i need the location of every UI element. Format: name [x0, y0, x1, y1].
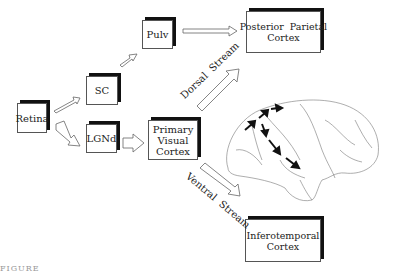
retina-box: Retina [17, 103, 47, 133]
arrow-retina-sc [54, 97, 80, 113]
sc-label: SC [95, 85, 110, 96]
ppc-line2: Cortex [240, 32, 327, 43]
lgnd-label: LGNd [87, 133, 117, 144]
pvc-line2: Visual [153, 135, 194, 146]
sc-box: SC [86, 76, 118, 105]
retina-label: Retina [15, 113, 48, 124]
arrow-pulv-ppc [183, 26, 237, 36]
brain-pathway-arrows [245, 105, 299, 168]
pulv-label: Pulv [146, 29, 168, 40]
lgnd-box: LGNd [86, 124, 117, 153]
arrow-retina-lgnd [56, 121, 80, 146]
pvc-line3: Cortex [153, 146, 194, 157]
primary-visual-cortex-box: Primary Visual Cortex [148, 120, 198, 160]
arrow-sc-pulv [120, 54, 137, 67]
pulv-box: Pulv [142, 20, 173, 49]
ppc-line1: Posterior Parietal [240, 21, 327, 32]
arrow-lgnd-pvc [123, 134, 144, 152]
itc-line1: Inferotemporal [247, 230, 320, 241]
figure-caption: FIGURE [0, 264, 40, 273]
inferotemporal-cortex-box: Inferotemporal Cortex [245, 219, 321, 262]
pvc-line1: Primary [153, 124, 194, 135]
brain-icon [227, 100, 379, 201]
itc-line2: Cortex [247, 241, 320, 252]
posterior-parietal-cortex-box: Posterior Parietal Cortex [246, 11, 321, 53]
